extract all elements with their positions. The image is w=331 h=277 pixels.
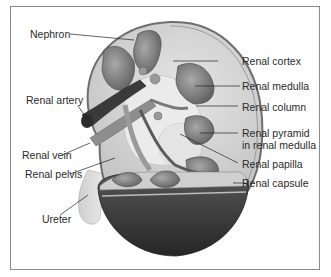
label-renal-medulla: Renal medulla — [242, 80, 309, 92]
label-renal-pelvis: Renal pelvis — [25, 168, 82, 180]
label-renal-artery: Renal artery — [26, 94, 83, 106]
label-ureter: Ureter — [42, 213, 71, 225]
label-renal-capsule: Renal capsule — [242, 177, 309, 189]
label-renal-cortex: Renal cortex — [242, 55, 301, 67]
label-nephron: Nephron — [30, 28, 70, 40]
label-renal-vein: Renal vein — [22, 149, 72, 161]
label-renal-column: Renal column — [242, 101, 306, 113]
kidney-cut-section — [98, 171, 249, 256]
label-renal-papilla: Renal papilla — [242, 158, 303, 170]
label-renal-pyramid-sub: in renal medulla — [242, 139, 316, 151]
label-renal-pyramid: Renal pyramid — [242, 127, 310, 139]
